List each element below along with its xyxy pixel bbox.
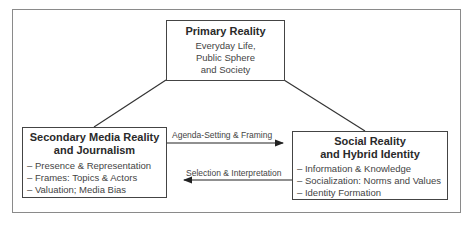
primary-line: Public Sphere: [167, 52, 284, 64]
secondary-item: – Frames: Topics & Actors: [27, 172, 166, 184]
social-item: – Information & Knowledge: [297, 163, 447, 175]
social-item: – Socialization: Norms and Values: [297, 175, 447, 187]
social-title-2: and Hybrid Identity: [293, 148, 447, 161]
primary-line: Everyday Life,: [167, 40, 284, 52]
secondary-title-2: and Journalism: [23, 144, 166, 157]
selection-interpretation-label: Selection & Interpretation: [186, 168, 281, 178]
primary-line: and Society: [167, 64, 284, 76]
primary-reality-title: Primary Reality: [167, 25, 284, 38]
primary-reality-box: Primary Reality Everyday Life, Public Sp…: [166, 20, 285, 81]
agenda-setting-label: Agenda-Setting & Framing: [172, 130, 272, 140]
secondary-item: – Valuation; Media Bias: [27, 184, 166, 196]
social-title-1: Social Reality: [293, 135, 447, 148]
social-item: – Identity Formation: [297, 187, 447, 199]
secondary-media-reality-box: Secondary Media Reality and Journalism –…: [22, 127, 167, 198]
secondary-item: – Presence & Representation: [27, 160, 166, 172]
secondary-title-1: Secondary Media Reality: [23, 131, 166, 144]
social-reality-box: Social Reality and Hybrid Identity – Inf…: [292, 131, 448, 200]
